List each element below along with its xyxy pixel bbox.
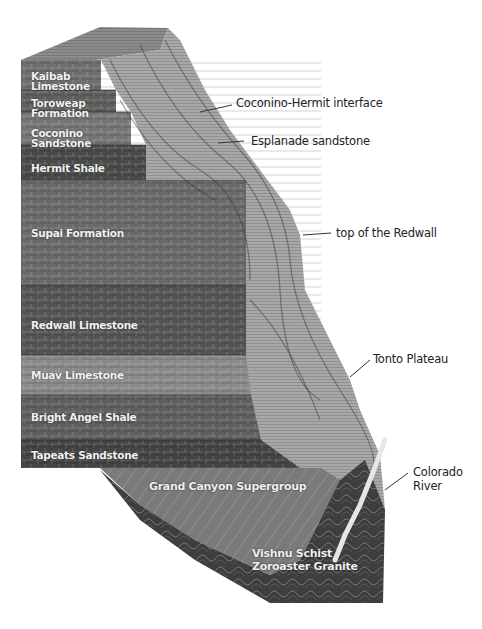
label-vishnu-schist: Vishnu Schist — [252, 548, 332, 560]
label-supai-formation: Supai Formation — [31, 228, 124, 238]
label-redwall-limestone: Redwall Limestone — [31, 320, 138, 330]
label-grand-canyon-supergroup: Grand Canyon Supergroup — [149, 481, 306, 493]
label-kaibab-limestone: Kaibab Limestone — [31, 71, 111, 91]
label-tapeats-sandstone: Tapeats Sandstone — [31, 450, 138, 460]
callout-colorado-river: Colorado River — [413, 465, 473, 493]
callout-coconino-hermit-interface: Coconino-Hermit interface — [236, 96, 383, 110]
callout-top-of-redwall: top of the Redwall — [336, 226, 437, 240]
label-bright-angel-shale: Bright Angel Shale — [31, 412, 136, 422]
label-coconino-sandstone: Coconino Sandstone — [31, 128, 111, 148]
label-zoroaster-granite: Zoroaster Granite — [252, 561, 358, 573]
label-hermit-shale: Hermit Shale — [31, 163, 105, 173]
label-muav-limestone: Muav Limestone — [31, 370, 124, 380]
callout-esplanade-sandstone: Esplanade sandstone — [251, 134, 370, 148]
label-toroweap-formation: Toroweap Formation — [31, 98, 111, 118]
callout-tonto-plateau: Tonto Plateau — [373, 352, 448, 366]
canyon-cross-section-illustration — [0, 0, 482, 629]
